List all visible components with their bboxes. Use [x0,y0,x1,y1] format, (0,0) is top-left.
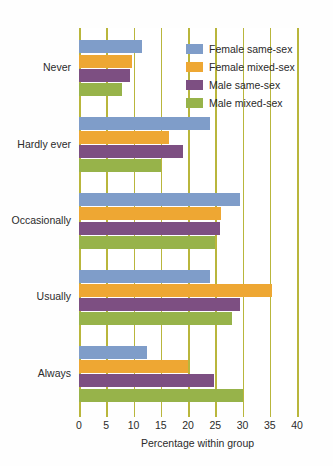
bar-group [79,270,297,326]
chart-legend: Female same-sexFemale mixed-sexMale same… [186,40,295,112]
x-tick-label: 0 [67,419,91,431]
bar [79,193,240,206]
x-tick [243,410,245,417]
x-tick-label: 25 [203,419,227,431]
x-tick [134,410,136,417]
category-label-never: Never [43,61,71,73]
legend-label: Female same-sex [209,43,292,55]
bar [79,83,122,96]
x-tick [79,410,81,417]
bar [79,131,169,144]
x-tick-label: 30 [231,419,255,431]
bar-group [79,193,297,249]
legend-item: Male same-sex [186,76,295,93]
gridline [297,28,299,410]
legend-label: Male same-sex [209,79,280,91]
legend-label: Female mixed-sex [209,61,295,73]
x-tick [215,410,217,417]
x-axis-title: Percentage within group [0,437,333,449]
bar [79,222,220,235]
legend-item: Female same-sex [186,40,295,57]
bar [79,69,130,82]
x-tick-label: 35 [258,419,282,431]
x-tick [188,410,190,417]
x-tick-label: 10 [122,419,146,431]
legend-swatch [186,44,203,54]
x-tick-label: 40 [285,419,309,431]
bar [79,117,210,130]
bar [79,207,221,220]
bar [79,55,132,68]
x-tick [161,410,163,417]
bar [79,236,215,249]
bar [79,360,188,373]
bar-group [79,117,297,173]
bar [79,312,232,325]
legend-item: Female mixed-sex [186,58,295,75]
legend-item: Male mixed-sex [186,94,295,111]
x-tick-label: 15 [149,419,173,431]
bar [79,374,214,387]
legend-swatch [186,98,203,108]
bar [79,284,272,297]
bar [79,389,243,402]
x-tick-label: 5 [94,419,118,431]
x-tick [106,410,108,417]
bar-chart: NeverHardly everOccasionallyUsuallyAlway… [0,0,333,466]
legend-swatch [186,80,203,90]
category-label-hardly-ever: Hardly ever [17,138,71,150]
bar [79,40,142,53]
bar [79,159,161,172]
bar [79,270,210,283]
bar [79,346,147,359]
x-tick [270,410,272,417]
x-tick-label: 20 [176,419,200,431]
category-label-occasionally: Occasionally [11,214,71,226]
x-tick [297,410,299,417]
category-label-always: Always [38,367,71,379]
bar [79,145,183,158]
bar [79,298,240,311]
legend-label: Male mixed-sex [209,97,283,109]
legend-swatch [186,62,203,72]
category-label-usually: Usually [37,290,71,302]
bar-group [79,346,297,402]
